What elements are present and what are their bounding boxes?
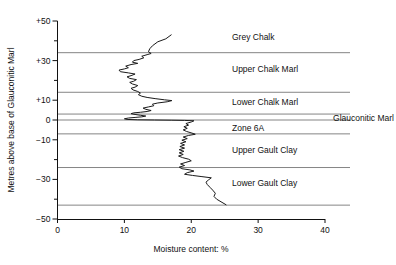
x-axis-tick-label: 30 [253, 225, 263, 235]
y-axis-tick-label: +10 [36, 95, 51, 105]
y-axis-ticks: −50−30−100+10+30+50 [36, 16, 57, 224]
stratigraphic-unit-label: Lower Chalk Marl [232, 97, 298, 107]
y-axis-tick-label: −10 [36, 135, 51, 145]
y-axis-tick-label: −50 [36, 214, 51, 224]
y-axis-tick-label: +30 [36, 56, 51, 66]
x-axis-tick-label: 40 [320, 225, 330, 235]
stratigraphic-unit-label: Grey Chalk [232, 32, 275, 42]
stratigraphic-boundary-lines [58, 53, 351, 205]
stratigraphic-unit-labels: Grey ChalkUpper Chalk MarlLower Chalk Ma… [232, 32, 394, 189]
x-axis-ticks: 010203040 [55, 219, 330, 235]
y-axis-tick-label: +50 [36, 16, 51, 26]
stratigraphic-unit-label: Upper Gault Clay [232, 145, 298, 155]
x-axis-tick-label: 10 [120, 225, 130, 235]
moisture-content-profile-figure: −50−30−100+10+30+50 010203040 Grey Chalk… [0, 0, 396, 265]
y-axis-tick-label: 0 [46, 115, 51, 125]
x-axis-tick-label: 0 [55, 225, 60, 235]
stratigraphic-unit-label: Zone 6A [232, 123, 264, 133]
stratigraphic-unit-label: Upper Chalk Marl [232, 64, 298, 74]
stratigraphic-unit-label: Glauconitic Marl [333, 113, 394, 123]
x-axis-title: Moisture content: % [153, 244, 229, 254]
stratigraphic-unit-label: Lower Gault Clay [232, 178, 298, 188]
y-axis-tick-label: −30 [36, 174, 51, 184]
x-axis-tick-label: 20 [187, 225, 197, 235]
profile-chart-svg: −50−30−100+10+30+50 010203040 Grey Chalk… [0, 0, 396, 265]
y-axis-title: Metres above base of Glauconitic Marl [6, 47, 16, 192]
